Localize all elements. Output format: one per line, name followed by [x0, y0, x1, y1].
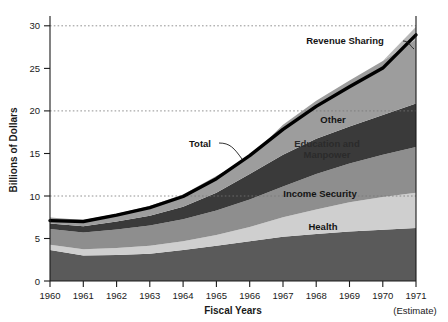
series-label-education-manpower-line2: Manpower [304, 149, 351, 160]
x-tick-label-1965: 1965 [206, 290, 227, 301]
x-tick-label-1971: 1971 [405, 290, 426, 301]
x-tick-label-1960: 1960 [39, 290, 60, 301]
y-tick-label-20: 20 [29, 105, 40, 116]
x-tick-label-1962: 1962 [106, 290, 127, 301]
x-tick-labels: 1960 1961 1962 1963 1964 1965 1966 1967 … [39, 290, 426, 301]
x-tick-label-1963: 1963 [139, 290, 160, 301]
y-tick-label-30: 30 [29, 20, 40, 31]
y-axis-title: Billions of Dollars [8, 107, 19, 192]
y-tick-label-10: 10 [29, 191, 40, 202]
x-tick-label-1967: 1967 [272, 290, 293, 301]
stacked-area-chart: 30 25 20 15 10 5 0 1960 1961 1962 1963 1… [0, 0, 448, 322]
x-tick-label-1970: 1970 [372, 290, 393, 301]
estimate-footnote: (Estimate) [393, 305, 436, 316]
y-tick-labels: 30 25 20 15 10 5 0 [29, 20, 40, 286]
chart-container: 30 25 20 15 10 5 0 1960 1961 1962 1963 1… [0, 0, 448, 322]
x-axis-title: Fiscal Years [204, 305, 262, 316]
total-leader-line [219, 143, 242, 159]
x-tick-label-1961: 1961 [73, 290, 94, 301]
series-bands [50, 27, 416, 281]
y-tick-label-25: 25 [29, 63, 40, 74]
series-label-other: Other [320, 114, 346, 125]
y-tick-label-15: 15 [29, 148, 40, 159]
y-tick-label-0: 0 [35, 276, 40, 287]
series-label-health: Health [308, 221, 337, 232]
x-tick-label-1968: 1968 [306, 290, 327, 301]
x-tick-label-1964: 1964 [173, 290, 194, 301]
series-label-total: Total [189, 138, 211, 149]
series-label-revenue-sharing: Revenue Sharing [306, 35, 384, 46]
x-tick-label-1966: 1966 [239, 290, 260, 301]
series-label-education-manpower-line1: Education and [294, 138, 360, 149]
x-tick-label-1969: 1969 [339, 290, 360, 301]
y-tick-label-5: 5 [35, 233, 40, 244]
series-label-income-security: Income Security [283, 188, 357, 199]
